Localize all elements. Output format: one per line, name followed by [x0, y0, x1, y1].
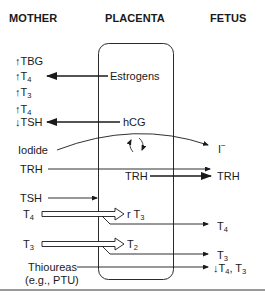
- mother-t3-up: ↑T3: [15, 86, 31, 98]
- exchange-arrow-right: [139, 138, 143, 150]
- mother-tsh: TSH: [20, 192, 42, 204]
- placenta-t2: T2: [127, 238, 138, 250]
- mother-t4-up: ↑T4: [15, 70, 31, 82]
- fetus-t4-t3-down: ↓T4, T3: [213, 262, 246, 274]
- placenta-hcg: hCG: [123, 116, 146, 128]
- hollow-arrow-t3-to-t2: [42, 238, 124, 250]
- mother-iodide: Iodide: [18, 144, 48, 156]
- mother-trh: TRH: [20, 163, 43, 175]
- exchange-arrow-left: [130, 140, 133, 152]
- fetus-t4: T4: [217, 220, 228, 232]
- mother-t3: T3: [23, 238, 34, 250]
- fetus-trh: TRH: [217, 170, 240, 182]
- fetus-iodide-ion: I−: [218, 140, 226, 155]
- bottom-rule: [0, 289, 265, 291]
- fetus-t3: T3: [217, 249, 228, 261]
- placenta-trh: TRH: [125, 170, 148, 182]
- hollow-arrow-t4-to-rt3: [42, 208, 124, 220]
- mother-t4: T4: [23, 208, 34, 220]
- mother-t4-up-hcg: ↑T4: [15, 103, 31, 115]
- mother-thioureas: Thioureas: [28, 261, 77, 273]
- placenta-rt3: r T3: [127, 208, 144, 220]
- arrow-iodide-to-fetus: [57, 134, 208, 150]
- mother-thioureas-example: (e.g., PTU): [25, 274, 79, 286]
- mother-tsh-down: ↓TSH: [15, 116, 43, 128]
- mother-tbg-up: ↑TBG: [15, 55, 43, 67]
- placenta-estrogens: Estrogens: [110, 70, 160, 82]
